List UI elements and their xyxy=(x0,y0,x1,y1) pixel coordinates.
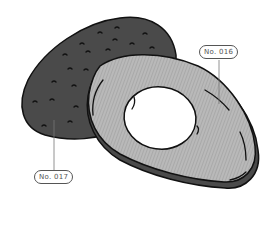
label-no-017: No. 017 xyxy=(34,170,73,184)
label-no-016: No. 016 xyxy=(199,45,238,59)
